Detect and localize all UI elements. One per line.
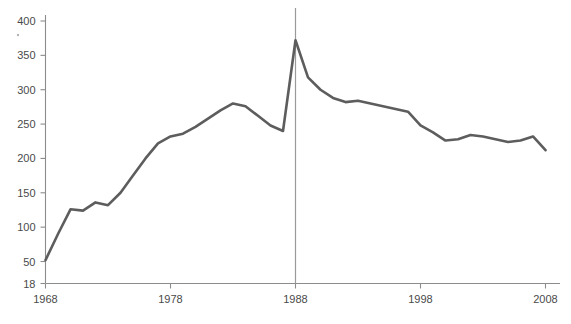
y-axis: 1850100150200250300350400 (17, 15, 45, 290)
x-tick-label: 1968 (33, 293, 57, 305)
x-tick-label: 1978 (158, 293, 182, 305)
y-tick-label: 100 (17, 221, 35, 233)
y-tick-group: 1850100150200250300350400 (17, 15, 45, 290)
y-tick-label: 50 (23, 256, 35, 268)
y-tick-label: 350 (17, 49, 35, 61)
chart-canvas: 1850100150200250300350400 19681978198819… (0, 0, 571, 324)
x-tick-label: 1998 (408, 293, 432, 305)
y-tick-label: 18 (23, 278, 35, 290)
x-tick-group: 19681978198819982008 (33, 284, 557, 305)
x-axis: 19681978198819982008 (33, 284, 560, 305)
y-tick-label: 150 (17, 187, 35, 199)
y-tick-label: 250 (17, 118, 35, 130)
y-tick-label: 300 (17, 84, 35, 96)
y-tick-label: 200 (17, 152, 35, 164)
stray-dot (17, 34, 19, 36)
line-chart: 1850100150200250300350400 19681978198819… (0, 0, 571, 324)
x-tick-label: 1988 (283, 293, 307, 305)
y-tick-label: 400 (17, 15, 35, 27)
x-tick-label: 2008 (533, 293, 557, 305)
